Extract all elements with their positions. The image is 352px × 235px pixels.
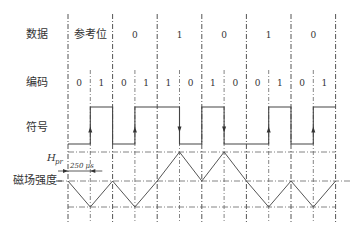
data-bits: 参考位01010 <box>74 27 317 41</box>
code-bit: 1 <box>322 78 328 88</box>
arrow-right-icon <box>63 169 68 173</box>
arrow-up-icon <box>88 127 92 133</box>
code-bit: 0 <box>299 78 305 88</box>
hpr-sub: pr <box>55 158 63 166</box>
code-bit: 0 <box>255 78 261 88</box>
data-bit: 0 <box>221 30 227 40</box>
data-bit: 参考位 <box>74 27 107 41</box>
arrow-up-icon <box>311 127 315 133</box>
row-label-field-strength: 磁场强度 <box>13 173 57 187</box>
arrow-up-icon <box>267 127 271 133</box>
biphase-encoding-diagram: 数据 编码 符号 磁场强度 H pr 参考位01010 010110100101… <box>0 0 352 235</box>
code-bit: 0 <box>188 78 194 88</box>
code-bit: 1 <box>210 78 216 88</box>
data-bit: 1 <box>177 30 183 40</box>
code-bit: 0 <box>121 78 127 88</box>
data-bit: 0 <box>310 30 316 40</box>
code-bit: 1 <box>143 78 149 88</box>
code-bit: 1 <box>165 78 171 88</box>
row-label-symbol: 符号 <box>26 121 48 134</box>
code-bit: 0 <box>76 78 82 88</box>
data-bit: 0 <box>132 30 138 40</box>
symbol-trace <box>68 107 336 144</box>
row-label-data: 数据 <box>26 27 48 41</box>
data-bit: 1 <box>266 30 272 40</box>
grid-lines <box>58 14 352 223</box>
code-bit: 0 <box>232 78 238 88</box>
arrow-up-icon <box>133 127 137 133</box>
period-label: 250 μs <box>69 162 94 170</box>
symbol-waveform <box>68 107 336 144</box>
period-marker: 250 μs <box>58 162 102 173</box>
code-bit: 1 <box>99 78 105 88</box>
arrow-down-icon <box>178 127 182 133</box>
arrow-down-icon <box>222 127 226 133</box>
row-label-code: 编码 <box>26 75 48 89</box>
field-waveform <box>56 152 336 207</box>
code-bit: 1 <box>277 78 283 88</box>
hpr-label: H pr <box>46 152 63 166</box>
